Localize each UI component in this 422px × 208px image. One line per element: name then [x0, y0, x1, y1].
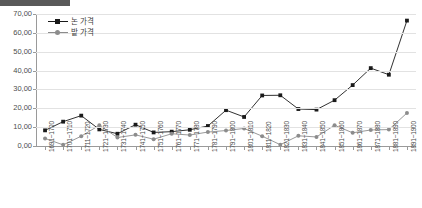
data-point	[188, 128, 192, 132]
x-tick-mark	[371, 147, 372, 150]
x-tick-mark	[262, 147, 263, 150]
x-tick-mark	[226, 147, 227, 150]
x-tick-mark	[335, 147, 336, 150]
data-point	[351, 131, 355, 135]
x-tick-mark	[280, 147, 281, 150]
cropped-header-bar	[0, 0, 70, 6]
x-tick-mark	[172, 147, 173, 150]
gridline	[36, 71, 416, 72]
legend-item-bat-gagyeok: 밭 가격	[48, 27, 94, 38]
legend-item-non-gagyeok: 논 가격	[48, 16, 94, 27]
x-tick-mark	[117, 147, 118, 150]
x-tick-label: 1761~1770	[175, 121, 182, 152]
x-tick-label: 1811~1820	[265, 122, 272, 152]
data-point	[116, 132, 120, 136]
y-tick-label: 70,00	[0, 10, 32, 18]
legend-marker-circle-icon	[48, 28, 68, 37]
x-tick-mark	[407, 147, 408, 150]
x-tick-mark	[316, 147, 317, 150]
y-tick-label: 10,00	[0, 123, 32, 131]
data-point	[314, 135, 318, 139]
data-point	[134, 133, 138, 137]
x-tick-label: 1731~1740	[120, 121, 127, 152]
data-point	[296, 134, 300, 138]
data-point	[405, 19, 409, 23]
data-point	[152, 137, 156, 141]
y-tick-label: 40,00	[0, 67, 32, 75]
data-point	[278, 93, 282, 97]
data-point	[115, 136, 119, 140]
legend-label-1: 밭 가격	[71, 27, 94, 38]
data-point	[369, 128, 373, 132]
x-tick-label: 1771~1780	[193, 121, 200, 152]
x-tick-label: 1831~1840	[301, 121, 308, 152]
line-chart: 70,0060,0050,0040,0030,0020,0010,000,00 …	[0, 0, 422, 208]
data-point	[43, 136, 47, 140]
data-point	[333, 98, 337, 102]
x-tick-mark	[208, 147, 209, 150]
x-tick-mark	[298, 147, 299, 150]
x-tick-label: 1701~1710	[66, 121, 73, 152]
data-point	[387, 73, 391, 77]
x-tick-label: 1711~1720	[84, 122, 91, 152]
x-tick-mark	[63, 147, 64, 150]
x-tick-label: 1741~1750	[139, 121, 146, 152]
data-point	[369, 66, 373, 70]
x-tick-label: 1861~1870	[356, 121, 363, 152]
x-tick-label: 1851~1860	[338, 121, 345, 152]
x-tick-mark	[154, 147, 155, 150]
data-point	[206, 130, 210, 134]
chart-legend: 논 가격 밭 가격	[48, 16, 94, 38]
x-tick-label: 1871~1880	[374, 121, 381, 152]
y-tick-label: 60,00	[0, 29, 32, 37]
x-tick-label: 1821~1830	[283, 121, 290, 152]
gridline	[36, 89, 416, 90]
x-tick-mark	[45, 147, 46, 150]
data-point	[260, 94, 264, 98]
legend-label-0: 논 가격	[71, 16, 94, 27]
data-point	[79, 114, 83, 118]
y-tick-label: 50,00	[0, 48, 32, 56]
x-tick-label: 1721~1730	[102, 121, 109, 152]
data-point	[61, 120, 65, 124]
y-tick-label: 0,00	[0, 142, 32, 150]
gridline	[36, 52, 416, 53]
y-tick-label: 20,00	[0, 104, 32, 112]
gridline	[36, 14, 416, 15]
legend-marker-square-icon	[48, 17, 68, 26]
series-line-0	[45, 21, 407, 134]
x-tick-label: 1781~1790	[211, 121, 218, 152]
data-point	[260, 134, 264, 138]
data-point	[188, 133, 192, 137]
x-tick-label: 1691~1700	[48, 121, 55, 152]
x-tick-label: 1751~1760	[157, 121, 164, 152]
x-tick-mark	[244, 147, 245, 150]
data-point	[170, 132, 174, 136]
data-point	[134, 123, 138, 127]
x-tick-mark	[136, 147, 137, 150]
x-tick-mark	[99, 147, 100, 150]
data-point	[242, 115, 246, 119]
x-tick-label: 1791~1800	[229, 121, 236, 152]
data-point	[43, 128, 47, 132]
x-tick-label: 1881~1890	[392, 121, 399, 152]
data-point	[405, 111, 409, 115]
data-point	[351, 83, 355, 87]
data-point	[224, 129, 228, 133]
y-tick-label: 30,00	[0, 85, 32, 93]
data-point	[387, 128, 391, 132]
gridline	[36, 108, 416, 109]
x-tick-label: 1841~1850	[319, 121, 326, 152]
x-tick-mark	[190, 147, 191, 150]
x-tick-mark	[81, 147, 82, 150]
x-tick-label: 1891~1900	[410, 121, 417, 152]
x-tick-mark	[353, 147, 354, 150]
x-tick-mark	[389, 147, 390, 150]
data-point	[79, 134, 83, 138]
data-point	[152, 131, 156, 135]
x-tick-label: 1801~1810	[247, 121, 254, 152]
